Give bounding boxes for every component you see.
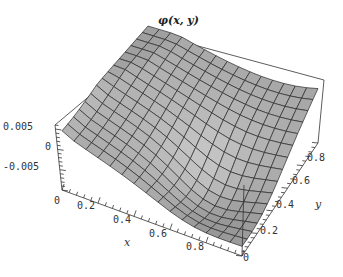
plot-title: φ(x, y) bbox=[158, 14, 199, 27]
axis-tick bbox=[105, 202, 106, 206]
x-tick-label: 0.4 bbox=[113, 214, 131, 225]
axis-tick bbox=[62, 184, 64, 190]
axis-tick bbox=[59, 158, 63, 159]
axis-tick bbox=[60, 170, 66, 171]
axis-tick bbox=[184, 231, 185, 235]
axis-tick bbox=[120, 208, 121, 212]
axis-tick bbox=[76, 192, 77, 196]
axis-tick bbox=[55, 125, 59, 126]
axis-tick bbox=[60, 174, 64, 175]
axis-tick bbox=[199, 237, 200, 241]
axis-tick bbox=[98, 197, 100, 203]
axis-tick bbox=[69, 189, 70, 193]
surface-plot: φ(x, y) 0.005 0 -0.005 0 0.2 0.4 0.6 0.8… bbox=[0, 0, 343, 277]
axis-tick bbox=[58, 153, 62, 154]
y-tick-label: 0 bbox=[243, 252, 249, 263]
axis-tick bbox=[58, 149, 64, 150]
axis-tick bbox=[112, 205, 113, 209]
y-tick-label: 0.8 bbox=[307, 152, 325, 163]
z-tick-label: 0.005 bbox=[3, 121, 33, 132]
axis-tick bbox=[134, 210, 136, 216]
axis-tick bbox=[251, 233, 257, 234]
axis-tick bbox=[282, 188, 288, 189]
axis-tick bbox=[57, 145, 61, 146]
axis-tick bbox=[84, 194, 85, 198]
axis-tick bbox=[177, 229, 178, 233]
x-tick-label: 0.8 bbox=[186, 241, 204, 252]
axis-tick bbox=[235, 250, 236, 254]
y-axis-label: y bbox=[314, 198, 322, 211]
axis-tick bbox=[213, 242, 214, 246]
axis-tick bbox=[141, 216, 142, 220]
axis-tick bbox=[312, 142, 318, 143]
axis-tick bbox=[61, 182, 65, 183]
y-tick-label: 0.6 bbox=[292, 175, 310, 186]
z-tick-label: -0.005 bbox=[3, 161, 39, 172]
axis-tick bbox=[56, 137, 60, 138]
axis-tick bbox=[56, 133, 60, 134]
axis-tick bbox=[59, 162, 63, 163]
axis-tick bbox=[61, 178, 65, 179]
axis-tick bbox=[170, 224, 172, 230]
axis-tick bbox=[228, 247, 229, 251]
axis-tick bbox=[192, 234, 193, 238]
axis-tick bbox=[163, 223, 164, 227]
x-tick-label: 0 bbox=[54, 195, 60, 206]
x-axis-label: x bbox=[124, 236, 131, 249]
axis-tick bbox=[266, 210, 272, 211]
y-tick-label: 0.4 bbox=[276, 199, 294, 210]
axis-tick bbox=[55, 129, 61, 130]
axis-tick bbox=[297, 165, 303, 166]
axis-tick bbox=[148, 218, 149, 222]
axis-tick bbox=[220, 245, 221, 249]
axis-tick bbox=[57, 141, 61, 142]
x-tick-label: 0.2 bbox=[77, 200, 95, 211]
axis-tick bbox=[156, 221, 157, 225]
surface-mesh bbox=[62, 26, 318, 246]
y-tick-label: 0.2 bbox=[260, 225, 278, 236]
z-axis-ticks bbox=[55, 125, 68, 191]
z-tick-label: 0 bbox=[45, 141, 51, 152]
axis-tick bbox=[206, 237, 208, 243]
axis-tick bbox=[62, 190, 68, 191]
x-tick-label: 0.6 bbox=[149, 228, 167, 239]
axis-tick bbox=[59, 166, 63, 167]
